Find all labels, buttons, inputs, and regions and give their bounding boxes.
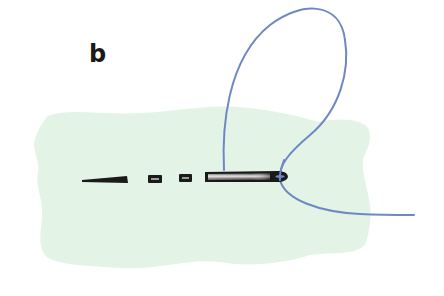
stitch-3 [179, 174, 192, 182]
stitch-2 [148, 175, 162, 183]
running-stitch-diagram [0, 0, 444, 296]
fabric-shape [34, 106, 370, 268]
needle [205, 171, 288, 182]
